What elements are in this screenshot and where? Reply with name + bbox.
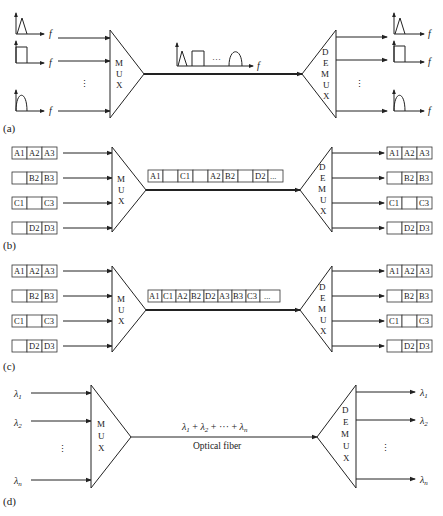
svg-text:A3: A3 (44, 266, 54, 276)
svg-text:...: ... (264, 291, 270, 301)
output-row-b: B2B3 (387, 290, 432, 302)
demux-letter: E (320, 173, 326, 183)
axis-f-label: f (49, 105, 53, 116)
input-lambda-2: λ2 (13, 417, 22, 430)
svg-text:C3: C3 (44, 316, 54, 326)
demux-letter: D (342, 405, 349, 415)
svg-text:C3: C3 (247, 291, 257, 301)
svg-text:A3: A3 (219, 291, 229, 301)
svg-text:B2: B2 (225, 171, 235, 181)
axis-f-label: f (49, 57, 53, 68)
svg-text:D2: D2 (29, 223, 39, 233)
input-row-a: A1A2A3 (12, 147, 57, 159)
output-spectrum-triangle: f (394, 13, 432, 39)
demux-letter: U (343, 441, 350, 451)
input-row-d: D2D3 (12, 340, 57, 352)
output-lambda-n: λn (419, 474, 428, 487)
input-row-d: D2D3 (12, 222, 57, 234)
svg-text:B2: B2 (404, 291, 414, 301)
demux-letter: U (323, 80, 330, 90)
svg-text:A1: A1 (14, 148, 24, 158)
axis-f-label: f (49, 28, 53, 39)
svg-text:C1: C1 (14, 316, 24, 326)
mux-letter: U (98, 431, 105, 441)
demux-letter: D (322, 47, 329, 57)
demux-letter: X (323, 91, 330, 101)
tdm-frame: A1 C1 A2 B2 D2 ... (148, 170, 283, 182)
svg-text:A1: A1 (389, 148, 399, 158)
svg-text:A1: A1 (149, 291, 159, 301)
demux-block (317, 385, 356, 488)
demux-letter: M (318, 304, 326, 314)
svg-text:D3: D3 (419, 223, 429, 233)
panel-label-a: (a) (3, 122, 16, 135)
output-row-b: B2B3 (387, 172, 432, 184)
vertical-ellipsis: ⋮ (58, 444, 67, 454)
svg-text:A1: A1 (389, 266, 399, 276)
input-spectrum-half-sine: f (16, 90, 53, 116)
svg-text:B2: B2 (404, 173, 414, 183)
input-row-c: C1C3 (12, 197, 57, 209)
multiplexing-diagram: f f f ⋮ M U X ··· (0, 0, 443, 516)
panel-a-fdm: f f f ⋮ M U X ··· (3, 13, 432, 135)
svg-text:D3: D3 (44, 223, 54, 233)
svg-text:D2: D2 (404, 341, 414, 351)
optical-fiber-label: Optical fiber (193, 441, 242, 451)
vertical-ellipsis: ⋮ (80, 79, 89, 89)
demux-letter: M (318, 184, 326, 194)
svg-text:B3: B3 (233, 291, 243, 301)
svg-text:B3: B3 (44, 173, 54, 183)
demux-letter: X (320, 326, 327, 336)
output-spectrum-rectangle: f (394, 41, 432, 67)
panel-b-sync-tdm: A1A2A3 B2B3 C1C3 D2D3 M U X A1 C1 A2 (3, 147, 432, 252)
axis-f-label: f (428, 28, 432, 39)
svg-text:A2: A2 (29, 148, 39, 158)
demux-letter: U (320, 195, 327, 205)
svg-text:B3: B3 (44, 291, 54, 301)
combined-spectrum: ··· f (177, 43, 261, 71)
svg-text:B2: B2 (191, 291, 201, 301)
svg-text:C1: C1 (389, 316, 399, 326)
panel-label-c: (c) (3, 360, 16, 373)
svg-text:D2: D2 (205, 291, 215, 301)
demux-letter: E (320, 293, 326, 303)
svg-text:...: ... (270, 171, 276, 181)
demux-letter: D (319, 282, 326, 292)
svg-text:A2: A2 (177, 291, 187, 301)
svg-text:A1: A1 (150, 171, 160, 181)
panel-c-stat-tdm: A1A2A3 B2B3 C1C3 D2D3 M U X A1 C1 A2 B2 … (3, 265, 432, 373)
svg-text:D2: D2 (29, 341, 39, 351)
output-row-a: A1A2A3 (387, 147, 432, 159)
mux-letter: X (116, 80, 123, 90)
panel-d-wdm: λ1 λ2 λn ⋮ M U X λ1 + λ2 + ··· + λn Opti… (3, 385, 428, 508)
axis-f-label: f (428, 56, 432, 67)
svg-text:D2: D2 (404, 223, 414, 233)
output-lambda-1: λ1 (419, 387, 428, 400)
mux-letter: X (98, 443, 105, 453)
svg-text:C1: C1 (389, 198, 399, 208)
mux-letter: M (117, 294, 125, 304)
output-lambda-2: λ2 (419, 415, 428, 428)
mux-letter: U (118, 305, 125, 315)
input-row-c: C1C3 (12, 315, 57, 327)
horizontal-ellipsis: ··· (212, 54, 221, 64)
svg-text:A1: A1 (14, 266, 24, 276)
svg-text:C1: C1 (163, 291, 173, 301)
input-row-a: A1A2A3 (12, 265, 57, 277)
mux-letter: M (97, 419, 105, 429)
demux-letter: X (343, 453, 350, 463)
input-spectrum-triangle: f (16, 13, 53, 39)
svg-text:D3: D3 (44, 341, 54, 351)
input-spectrum-rectangle: f (16, 41, 53, 68)
svg-text:C3: C3 (44, 198, 54, 208)
mux-block (91, 385, 131, 488)
demux-letter: E (323, 58, 329, 68)
mux-letter: M (115, 58, 123, 68)
output-row-c: C1C3 (387, 197, 432, 209)
svg-text:A2: A2 (404, 266, 414, 276)
demux-letter: U (320, 315, 327, 325)
combined-signal-label: λ1 + λ2 + ··· + λn (181, 421, 248, 434)
svg-text:C3: C3 (419, 198, 429, 208)
demux-letter: M (341, 429, 349, 439)
svg-text:A2: A2 (210, 171, 220, 181)
